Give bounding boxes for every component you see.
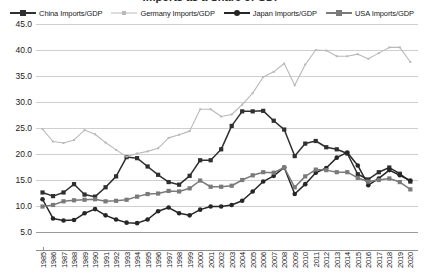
- data-point: [325, 50, 327, 52]
- x-axis-tick-labels: 1985198619871988198919901991199219931994…: [36, 252, 418, 280]
- x-axis-tick-label: 2017: [375, 252, 384, 268]
- data-point: [336, 55, 338, 57]
- legend-item-label: China Imports/GDP: [39, 9, 102, 18]
- data-point: [73, 139, 75, 141]
- x-axis-origin-tick: [43, 247, 44, 251]
- data-point: [51, 216, 56, 221]
- series-line: [43, 152, 411, 223]
- data-point: [399, 46, 401, 48]
- data-point: [282, 127, 286, 131]
- x-axis-tick-label: 1994: [133, 252, 142, 268]
- data-point: [103, 185, 107, 189]
- data-point: [303, 182, 308, 187]
- legend-item-label: Germany Imports/GDP: [140, 9, 214, 18]
- data-point: [156, 209, 161, 214]
- data-point: [124, 220, 129, 225]
- legend-item-japan[interactable]: Japan Imports/GDP: [224, 9, 317, 18]
- data-point: [177, 189, 181, 193]
- data-point: [272, 171, 276, 175]
- series-germany: [42, 46, 412, 157]
- series-layer: [36, 24, 418, 232]
- x-axis-tick-label: 2013: [333, 252, 342, 268]
- x-axis-tick-label: 2001: [207, 252, 216, 268]
- series-japan: [40, 150, 412, 225]
- data-point: [408, 178, 413, 183]
- data-point: [388, 46, 390, 48]
- data-point: [377, 178, 381, 182]
- data-point: [219, 147, 223, 151]
- data-point: [252, 92, 254, 94]
- data-point: [103, 213, 108, 218]
- data-point: [61, 218, 66, 223]
- data-point: [61, 190, 65, 194]
- data-point: [346, 55, 348, 57]
- x-axis-tick-label: 1996: [154, 252, 163, 268]
- data-point: [304, 64, 306, 66]
- x-axis-tick-label: 1990: [91, 252, 100, 268]
- data-point: [198, 207, 203, 212]
- data-point: [187, 213, 192, 218]
- data-point: [40, 190, 44, 194]
- x-axis-tick-label: 2019: [396, 252, 405, 268]
- data-point: [261, 179, 266, 184]
- data-point: [198, 158, 202, 162]
- data-point: [240, 199, 245, 204]
- legend-key-icon: [111, 9, 137, 18]
- data-point: [408, 187, 412, 191]
- data-point: [167, 180, 171, 184]
- data-point: [303, 142, 307, 146]
- data-point: [135, 221, 140, 226]
- data-point: [292, 192, 297, 197]
- legend-item-china[interactable]: China Imports/GDP: [10, 9, 102, 18]
- data-point: [345, 170, 349, 174]
- x-axis-tick-label: 2006: [259, 252, 268, 268]
- data-point: [147, 150, 149, 152]
- data-point: [282, 165, 286, 169]
- data-point: [324, 168, 328, 172]
- legend-key-icon: [10, 9, 36, 18]
- data-point: [366, 179, 370, 183]
- y-axis-tick-label: 45.0: [0, 19, 32, 29]
- data-point: [177, 211, 182, 216]
- data-point: [273, 71, 275, 73]
- data-point: [283, 63, 285, 65]
- x-axis-tick-label: 1986: [49, 252, 58, 268]
- x-axis-tick-label: 2010: [301, 252, 310, 268]
- data-point: [345, 150, 350, 155]
- data-point: [199, 108, 201, 110]
- series-line: [43, 111, 411, 197]
- data-point: [220, 116, 222, 118]
- x-axis-tick-label: 1995: [144, 252, 153, 268]
- data-point: [146, 192, 150, 196]
- data-point: [167, 189, 171, 193]
- x-axis-tick-label: 2007: [270, 252, 279, 268]
- data-point: [219, 204, 224, 209]
- data-point: [251, 173, 255, 177]
- legend-item-usa[interactable]: USA Imports/GDP: [326, 9, 414, 18]
- legend-item-germany[interactable]: Germany Imports/GDP: [111, 9, 214, 18]
- data-point: [93, 207, 98, 212]
- data-point: [209, 158, 213, 162]
- data-point: [229, 203, 234, 208]
- data-point: [146, 164, 150, 168]
- x-axis-tick-label: 1991: [102, 252, 111, 268]
- data-point: [272, 119, 276, 123]
- x-axis-tick-label: 2009: [291, 252, 300, 268]
- data-point: [136, 152, 138, 154]
- data-point: [230, 184, 234, 188]
- chart-title-clipped: Imports as a Share of GDP: [0, 0, 424, 5]
- data-point: [262, 76, 264, 78]
- data-point: [72, 182, 76, 186]
- imports-gdp-chart: Imports as a Share of GDP China Imports/…: [0, 0, 424, 280]
- x-axis-tick-label: 1989: [81, 252, 90, 268]
- data-point: [209, 185, 213, 189]
- data-point: [208, 204, 213, 209]
- legend-item-label: Japan Imports/GDP: [253, 9, 317, 18]
- data-point: [114, 174, 118, 178]
- data-point: [294, 84, 296, 86]
- x-axis-tick-label: 1998: [175, 252, 184, 268]
- data-point: [114, 199, 118, 203]
- data-point: [166, 205, 171, 210]
- data-point: [103, 199, 107, 203]
- data-point: [115, 149, 117, 151]
